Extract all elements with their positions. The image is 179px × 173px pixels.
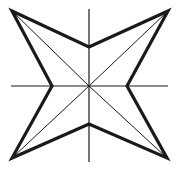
four-pointed-star-figure bbox=[0, 0, 179, 173]
figure-canvas bbox=[0, 0, 179, 173]
